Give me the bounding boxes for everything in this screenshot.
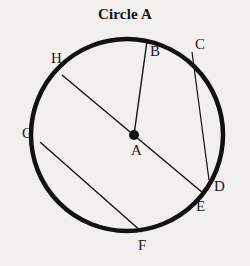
segment-group — [40, 41, 209, 232]
point-label-g: G — [22, 126, 33, 141]
point-label-f: F — [138, 238, 146, 253]
center-point-a — [129, 130, 139, 140]
radius-AB — [134, 41, 147, 135]
point-label-h: H — [51, 51, 62, 66]
point-label-b: B — [150, 44, 160, 59]
point-label-c: C — [195, 37, 205, 52]
point-label-d: D — [214, 179, 225, 194]
chord-GF — [40, 142, 142, 232]
point-label-a: A — [131, 143, 142, 158]
circle-diagram-figure: Circle A ABCDEFGH — [0, 0, 250, 266]
point-label-e: E — [196, 199, 205, 214]
geometry-canvas — [0, 0, 250, 266]
